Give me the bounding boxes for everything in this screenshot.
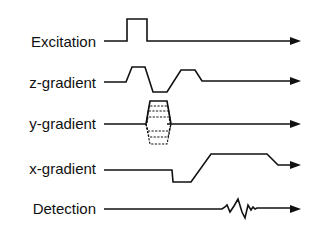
phase-encode-step [147, 117, 170, 123]
readout-gradient [104, 154, 292, 182]
arrow-head [290, 120, 301, 128]
z-gradient-waveform [104, 67, 301, 92]
excitation-waveform [104, 19, 301, 45]
phase-encode-step [147, 111, 170, 121]
row-label-z-gradient: z-gradient [29, 74, 97, 91]
y-gradient-waveform [104, 101, 301, 144]
echo-signal [104, 199, 292, 218]
phase-encode-step [146, 124, 171, 144]
row-label-detection: Detection [33, 200, 96, 217]
rf-pulse [104, 19, 292, 41]
row-label-excitation: Excitation [31, 33, 96, 50]
arrow-head [290, 161, 301, 169]
row-label-x-gradient: x-gradient [29, 160, 97, 177]
phase-encode-max-step [146, 101, 171, 124]
arrow-head [290, 77, 301, 85]
row-label-y-gradient: y-gradient [29, 115, 97, 132]
arrow-head [290, 205, 301, 213]
arrow-head [290, 37, 301, 45]
slice-select-gradient [104, 67, 292, 92]
x-gradient-waveform [104, 154, 301, 182]
detection-waveform [104, 199, 301, 218]
pulse-sequence-diagram: Excitation z-gradient y-gradient x-gradi… [0, 0, 315, 227]
phase-encode-step [146, 124, 171, 131]
